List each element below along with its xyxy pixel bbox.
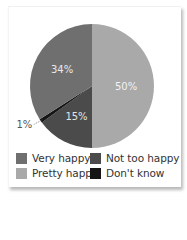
legend-swatch-pretty-happy — [16, 168, 27, 179]
legend-label: Don't know — [106, 167, 164, 179]
chart-legend: Very happy Not too happy Pretty happy Do… — [16, 151, 186, 180]
legend-item-not-too-happy: Not too happy — [90, 151, 180, 165]
legend-swatch-dont-know — [90, 168, 101, 179]
slice-label: 15% — [65, 111, 87, 122]
slice-label: 34% — [51, 64, 73, 75]
legend-item-pretty-happy: Pretty happy — [16, 166, 90, 180]
legend-label: Not too happy — [106, 152, 179, 164]
legend-swatch-very-happy — [16, 153, 27, 164]
slice-label: 1% — [17, 119, 33, 130]
legend-label: Pretty happy — [32, 167, 98, 179]
legend-item-dont-know: Don't know — [90, 166, 180, 180]
legend-swatch-not-too-happy — [90, 153, 101, 164]
slice-label: 50% — [115, 81, 137, 92]
legend-label: Very happy — [32, 152, 90, 164]
legend-item-very-happy: Very happy — [16, 151, 90, 165]
